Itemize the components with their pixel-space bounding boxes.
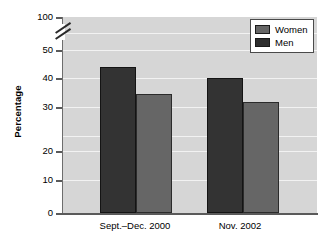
y-tick-label: 0 <box>13 208 53 218</box>
y-tick-mark <box>56 78 62 80</box>
y-tick-mark <box>56 213 62 215</box>
y-tick-mark <box>56 50 62 52</box>
legend-swatch-women-icon <box>255 25 270 34</box>
bar-women-2002 <box>243 102 279 213</box>
y-tick-label: 30 <box>13 102 53 112</box>
legend: Women Men <box>250 19 314 53</box>
y-tick-label: 40 <box>13 73 53 83</box>
y-tick-mark <box>56 17 62 19</box>
x-axis-label-group-1: Sept.–Dec. 2000 <box>80 220 190 231</box>
y-tick-label: 50 <box>13 45 53 55</box>
bar-women-2000 <box>136 94 172 213</box>
x-axis-line <box>62 213 318 215</box>
y-tick-mark <box>56 180 62 182</box>
y-tick-label: 100 <box>13 12 53 22</box>
y-tick-label: 10 <box>13 175 53 185</box>
bar-chart: Percentage 100 50 40 30 20 10 0 Sept <box>0 0 332 245</box>
legend-item-women: Women <box>255 23 308 36</box>
y-tick-mark <box>56 107 62 109</box>
bar-men-2000 <box>100 67 136 213</box>
legend-item-men: Men <box>255 36 308 49</box>
bar-men-2002 <box>207 78 243 213</box>
legend-swatch-men-icon <box>255 38 270 47</box>
y-tick-mark <box>56 151 62 153</box>
y-tick-label: 20 <box>13 146 53 156</box>
axis-break-icon <box>52 22 74 42</box>
x-axis-label-group-2: Nov. 2002 <box>195 220 285 231</box>
legend-label-men: Men <box>275 38 293 48</box>
legend-label-women: Women <box>275 25 308 35</box>
